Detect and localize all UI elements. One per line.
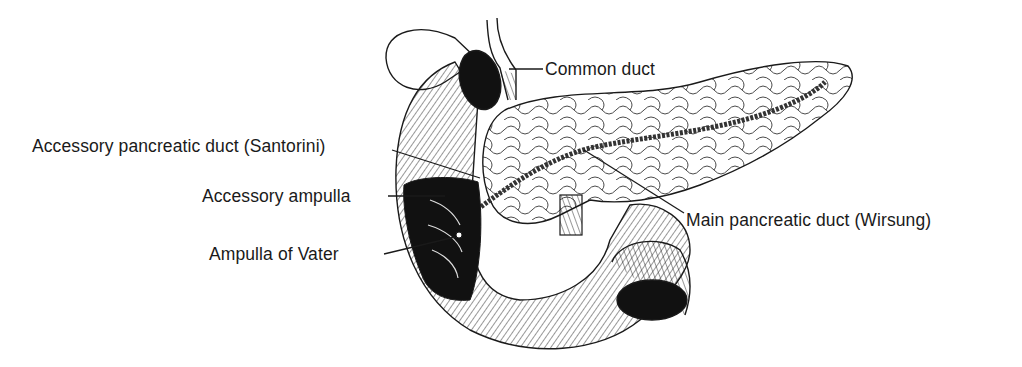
label-main-pancreatic-duct: Main pancreatic duct (Wirsung) xyxy=(686,210,931,230)
pancreas-body xyxy=(483,62,852,224)
label-accessory-ampulla: Accessory ampulla xyxy=(202,186,351,206)
label-common-duct: Common duct xyxy=(545,59,655,79)
label-accessory-pancreatic-duct: Accessory pancreatic duct (Santorini) xyxy=(32,136,326,156)
pancreas-diagram: Common duct Accessory pancreatic duct (S… xyxy=(0,0,1022,367)
anatomy-illustration xyxy=(0,0,1022,367)
label-ampulla-of-vater: Ampulla of Vater xyxy=(209,244,339,264)
